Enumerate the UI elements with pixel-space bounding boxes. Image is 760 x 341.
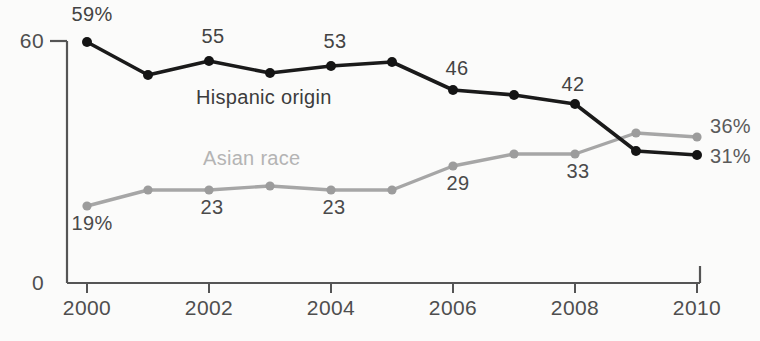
x-axis-label-2008: 2008 (551, 296, 599, 320)
line-chart: 60 0 2000 2002 2004 2006 2008 2010 59% 5… (0, 0, 760, 341)
series-label-hispanic-origin: Hispanic origin (196, 86, 332, 109)
y-axis-label-60: 60 (8, 29, 44, 53)
hispanic-label-2006: 46 (446, 57, 469, 80)
x-axis-ticks (87, 283, 697, 293)
hispanic-label-2008: 42 (562, 73, 585, 96)
y-axis-label-0: 0 (8, 271, 44, 295)
x-axis-label-2002: 2002 (185, 296, 233, 320)
hispanic-label-2004: 53 (324, 30, 347, 53)
chart-plot-area (0, 0, 760, 341)
x-axis-label-2000: 2000 (63, 296, 111, 320)
hispanic-end-label-2010: 31% (710, 145, 751, 168)
asian-label-2002: 23 (201, 196, 224, 219)
x-axis (67, 266, 700, 293)
series-label-asian-race: Asian race (203, 147, 301, 170)
x-axis-label-2006: 2006 (429, 296, 477, 320)
asian-label-2008: 33 (567, 160, 590, 183)
x-axis-label-2010: 2010 (673, 296, 721, 320)
hispanic-label-2002: 55 (202, 25, 225, 48)
hispanic-label-2000: 59% (72, 3, 113, 26)
y-axis (50, 41, 67, 283)
asian-label-2004: 23 (323, 196, 346, 219)
series-asian-race (82, 128, 701, 210)
x-axis-label-2004: 2004 (307, 296, 355, 320)
asian-race-line (87, 133, 697, 206)
asian-end-label-2010: 36% (710, 115, 751, 138)
asian-label-2000: 19% (72, 212, 113, 235)
asian-label-2006: 29 (447, 172, 470, 195)
